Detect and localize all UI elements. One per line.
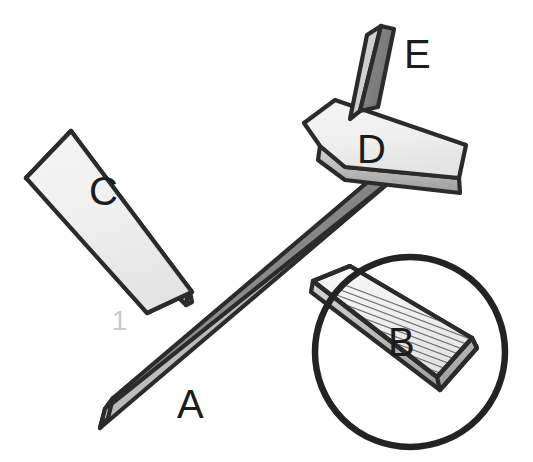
- diagram-root: E D C B A 1: [0, 0, 533, 462]
- label-c: C: [89, 169, 118, 213]
- label-a: A: [177, 382, 204, 426]
- part-c-face-main: [26, 131, 192, 313]
- part-e-fin[interactable]: [350, 26, 394, 119]
- parts-illustration: E D C B A 1: [0, 0, 533, 462]
- label-d: D: [357, 127, 386, 171]
- label-e: E: [404, 32, 431, 76]
- label-b: B: [388, 320, 415, 364]
- label-assembly-number: 1: [112, 306, 127, 336]
- part-c-plate[interactable]: [26, 131, 192, 313]
